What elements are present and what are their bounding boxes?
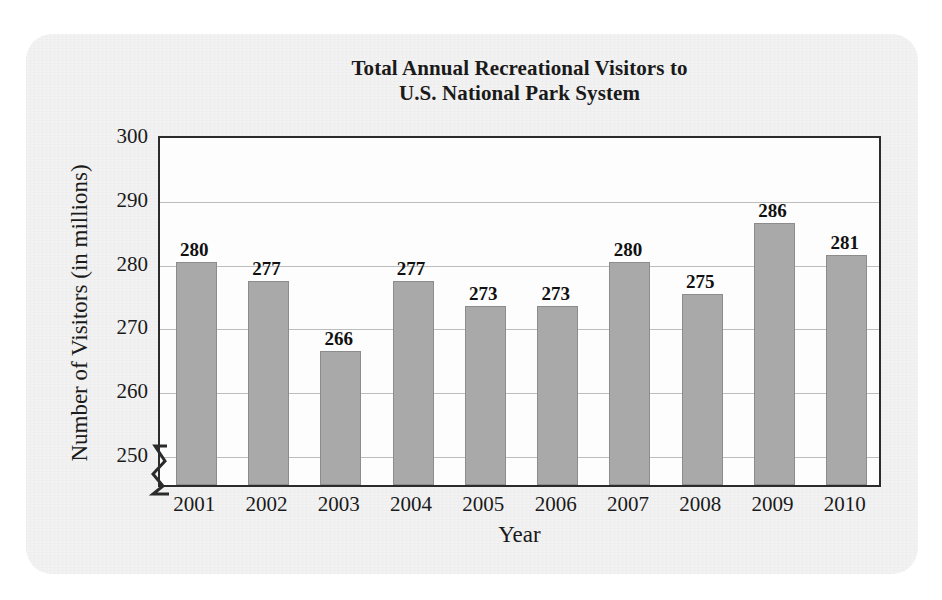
bar-value-label-2010: 281 — [815, 232, 875, 254]
bar-value-label-2004: 277 — [381, 258, 441, 280]
x-tick-2003: 2003 — [299, 492, 379, 517]
bar-2002[interactable] — [248, 281, 289, 485]
bar-2004[interactable] — [393, 281, 434, 485]
y-axis-title: Number of Visitors (in millions) — [67, 133, 93, 493]
bar-2006[interactable] — [537, 306, 578, 485]
chart-title-line-2: U.S. National Park System — [158, 81, 881, 106]
x-tick-2005: 2005 — [443, 492, 523, 517]
bar-value-label-2001: 280 — [164, 239, 224, 261]
bar-2010[interactable] — [826, 255, 867, 485]
bar-value-label-2007: 280 — [598, 239, 658, 261]
plot-area — [158, 136, 881, 487]
bar-2001[interactable] — [176, 262, 217, 485]
x-tick-2002: 2002 — [226, 492, 306, 517]
bar-value-label-2008: 275 — [670, 271, 730, 293]
y-tick-260: 260 — [94, 379, 148, 404]
bar-2003[interactable] — [320, 351, 361, 485]
bar-2009[interactable] — [754, 223, 795, 485]
y-tick-250: 250 — [94, 443, 148, 468]
bar-2005[interactable] — [465, 306, 506, 485]
x-tick-2004: 2004 — [371, 492, 451, 517]
bar-value-label-2003: 266 — [309, 328, 369, 350]
x-tick-2001: 2001 — [154, 492, 234, 517]
bar-value-label-2006: 273 — [526, 283, 586, 305]
bar-2007[interactable] — [609, 262, 650, 485]
bar-value-label-2005: 273 — [453, 283, 513, 305]
chart-title: Total Annual Recreational Visitors to U.… — [158, 56, 881, 106]
y-tick-300: 300 — [94, 124, 148, 149]
x-tick-2010: 2010 — [805, 492, 885, 517]
y-tick-280: 280 — [94, 252, 148, 277]
bar-value-label-2002: 277 — [236, 258, 296, 280]
x-tick-2008: 2008 — [660, 492, 740, 517]
bar-2008[interactable] — [682, 294, 723, 485]
axis-break-icon — [145, 444, 175, 496]
x-tick-2006: 2006 — [516, 492, 596, 517]
x-tick-2009: 2009 — [733, 492, 813, 517]
y-tick-270: 270 — [94, 315, 148, 340]
y-tick-290: 290 — [94, 188, 148, 213]
x-tick-2007: 2007 — [588, 492, 668, 517]
x-axis-title: Year — [158, 522, 881, 548]
chart-title-line-1: Total Annual Recreational Visitors to — [351, 56, 687, 80]
chart-page: Total Annual Recreational Visitors to U.… — [0, 0, 942, 600]
bar-value-label-2009: 286 — [743, 200, 803, 222]
